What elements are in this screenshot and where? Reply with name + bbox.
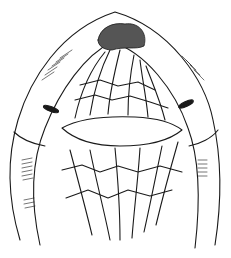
papillae	[98, 24, 145, 50]
left-slit	[43, 104, 60, 114]
anatomical-drawing	[0, 0, 231, 258]
illustration	[0, 0, 231, 258]
central-opening	[62, 117, 182, 146]
right-slit	[178, 98, 195, 109]
inner-contour	[34, 42, 198, 248]
